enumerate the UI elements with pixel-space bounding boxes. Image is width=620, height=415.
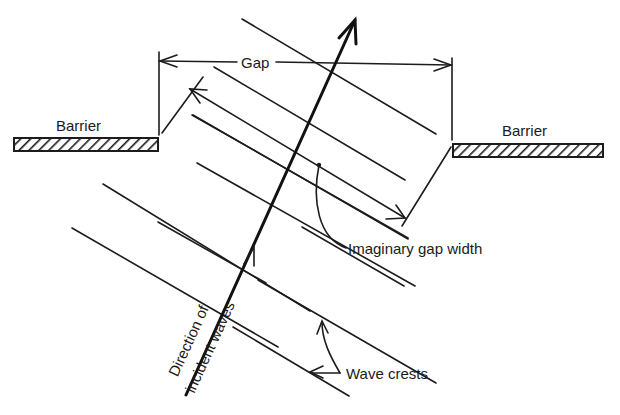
barrier-left	[14, 138, 158, 151]
imaginary-gap-width-label: Imaginary gap width	[348, 240, 482, 257]
barrier-right	[453, 144, 603, 157]
wave-crests-callout	[310, 321, 340, 378]
wave-gap-diagram: Barrier Barrier Gap	[0, 0, 620, 415]
direction-label: Direction of incident waves	[161, 289, 237, 395]
imaginary-gap-width	[162, 77, 451, 226]
wave-crests	[72, 19, 436, 396]
imaginary-gap-width-callout	[316, 163, 346, 248]
direction-arrowhead-icon	[339, 20, 356, 44]
barrier-left-label: Barrier	[56, 117, 101, 134]
barrier-right-label: Barrier	[502, 122, 547, 139]
wave-crests-label: Wave crests	[346, 365, 428, 382]
gap-label: Gap	[241, 54, 269, 71]
